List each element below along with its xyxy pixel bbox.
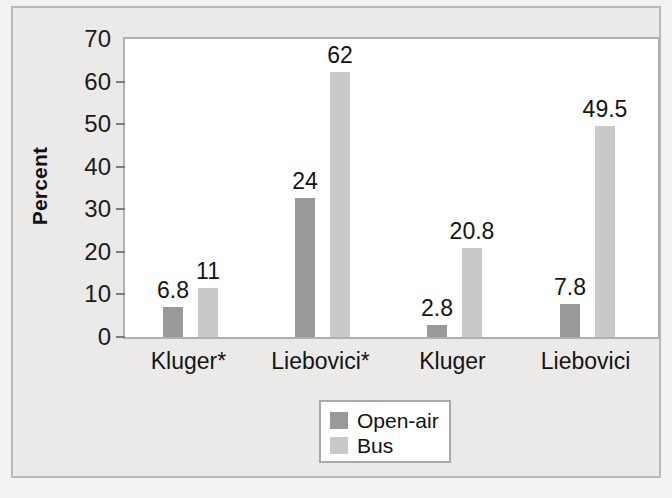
bar-bus-0: 11 — [198, 288, 218, 337]
y-tick-label: 0 — [98, 324, 111, 350]
plot-area: 010203040506070 6.81124622.820.87.849.5 — [123, 37, 660, 339]
legend-item-open-air[interactable]: Open-air — [330, 408, 449, 432]
y-tick-label: 30 — [84, 196, 111, 222]
plot-inner: 010203040506070 6.81124622.820.87.849.5 — [125, 39, 658, 337]
bar-bus-1: 62 — [330, 72, 350, 337]
bar-open-air-0: 6.8 — [163, 307, 183, 337]
y-tick-mark — [116, 166, 125, 168]
legend-item-bus[interactable]: Bus — [330, 433, 449, 457]
y-tick-mark — [116, 251, 125, 253]
y-tick-mark — [116, 123, 125, 125]
bar-value-label: 62 — [327, 43, 353, 68]
bar-bus-2: 20.8 — [462, 248, 482, 337]
y-tick-label: 40 — [84, 154, 111, 180]
bar-value-label: 7.8 — [554, 275, 586, 300]
bar-value-label: 2.8 — [421, 296, 453, 321]
y-tick-label: 10 — [84, 281, 111, 307]
x-category-label-2: Kluger — [419, 348, 485, 374]
y-tick-mark — [116, 81, 125, 83]
x-category-label-0: Kluger* — [151, 348, 226, 374]
bar-value-label: 20.8 — [450, 219, 495, 244]
bar-value-label: 49.5 — [583, 97, 628, 122]
bar-open-air-3: 7.8 — [560, 304, 580, 337]
bar-value-label: 11 — [196, 259, 220, 284]
legend-swatch-icon — [330, 437, 348, 454]
y-tick-mark — [116, 208, 125, 210]
bar-bus-3: 49.5 — [595, 126, 615, 337]
y-tick-label: 20 — [84, 239, 111, 265]
x-category-label-3: Liebovici — [541, 348, 631, 374]
y-tick-label: 60 — [84, 69, 111, 95]
legend-swatch-icon — [330, 412, 348, 429]
y-tick-label: 70 — [84, 26, 111, 52]
bar-open-air-2: 2.8 — [427, 325, 447, 337]
x-category-label-1: Liebovici* — [271, 348, 369, 374]
bar-value-label: 24 — [292, 169, 318, 194]
y-tick-mark — [116, 336, 125, 338]
legend-label: Bus — [357, 434, 393, 457]
bar-open-air-1: 24 — [295, 198, 315, 337]
bar-value-label: 6.8 — [157, 278, 189, 303]
y-axis-title: Percent — [25, 37, 55, 335]
y-tick-mark — [116, 293, 125, 295]
legend-label: Open-air — [357, 409, 439, 432]
y-tick-label: 50 — [84, 111, 111, 137]
figure-frame: Percent 010203040506070 6.81124622.820.8… — [11, 6, 661, 478]
chart-legend: Open-airBus — [319, 400, 451, 463]
